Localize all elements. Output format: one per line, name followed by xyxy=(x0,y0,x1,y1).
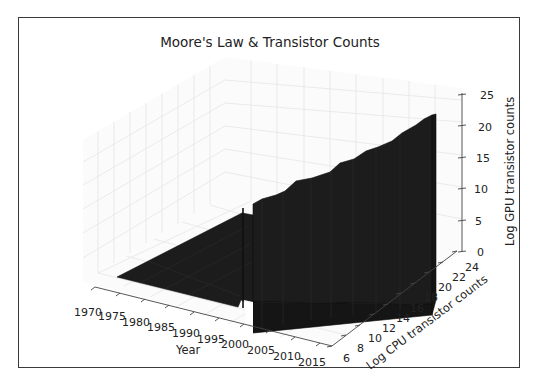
svg-text:14: 14 xyxy=(396,312,410,325)
svg-text:6: 6 xyxy=(343,352,350,365)
svg-text:2015: 2015 xyxy=(298,356,326,369)
chart-title: Moore's Law & Transistor Counts xyxy=(160,34,380,50)
svg-text:1985: 1985 xyxy=(147,321,175,334)
svg-text:1990: 1990 xyxy=(172,327,200,340)
svg-text:20: 20 xyxy=(438,281,452,294)
svg-text:10: 10 xyxy=(474,183,488,196)
year-axis-label: Year xyxy=(175,343,201,357)
svg-text:12: 12 xyxy=(382,322,396,335)
svg-text:2005: 2005 xyxy=(247,344,275,357)
svg-text:16: 16 xyxy=(410,302,424,315)
svg-text:18: 18 xyxy=(424,291,438,304)
svg-text:20: 20 xyxy=(478,121,492,134)
svg-text:5: 5 xyxy=(475,215,482,228)
svg-text:8: 8 xyxy=(357,342,364,355)
svg-text:10: 10 xyxy=(368,332,382,345)
svg-text:2010: 2010 xyxy=(273,350,301,363)
svg-text:25: 25 xyxy=(480,89,494,102)
svg-text:2000: 2000 xyxy=(221,338,249,351)
svg-text:0: 0 xyxy=(477,246,484,259)
chart-3d-plot: Moore's Law & Transistor Counts xyxy=(0,0,535,392)
svg-text:22: 22 xyxy=(452,271,466,284)
gpu-tick-labels: 0 5 10 15 20 25 xyxy=(474,89,494,259)
svg-text:15: 15 xyxy=(476,152,490,165)
svg-text:1980: 1980 xyxy=(122,316,150,329)
gpu-axis-label: Log GPU transistor counts xyxy=(503,97,517,246)
svg-text:24: 24 xyxy=(465,261,479,274)
